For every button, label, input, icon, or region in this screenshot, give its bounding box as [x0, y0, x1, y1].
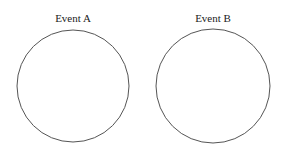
event-b-label: Event B — [173, 12, 253, 24]
event-b-circle — [156, 29, 270, 143]
event-a-circle — [17, 30, 129, 142]
event-a-label: Event A — [33, 12, 113, 24]
